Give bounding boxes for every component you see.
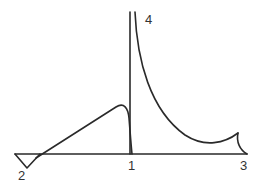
right-decay-curve: [135, 12, 238, 143]
label-point-4: 4: [145, 12, 152, 27]
label-point-2: 2: [18, 168, 25, 183]
right-cusp: [237, 133, 247, 154]
left-rising-curve: [36, 105, 132, 158]
label-point-3: 3: [240, 158, 247, 173]
left-triangle: [15, 154, 40, 168]
curve-diagram: 2 1 3 4: [0, 0, 265, 195]
label-point-1: 1: [128, 158, 135, 173]
diagram-canvas: 2 1 3 4: [0, 0, 265, 195]
